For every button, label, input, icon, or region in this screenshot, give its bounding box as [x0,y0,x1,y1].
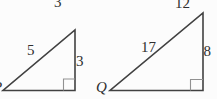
right-hypotenuse-label: 17 [141,40,156,55]
left-hypotenuse-label: 5 [27,43,35,58]
clipped-top-label-right: 12 [175,0,190,11]
left-vertical-side-label: 3 [76,54,84,69]
right-triangle-outline [110,13,203,91]
left-vertex-label-partial: P [0,80,2,95]
left-triangle-outline [3,30,75,91]
right-vertex-label: Q [96,80,107,95]
clipped-top-label-left: 3 [54,0,62,10]
right-right-angle-marker-icon [191,80,204,91]
similar-triangles-figure: 3 12 5 3 P 17 8 Q [0,0,217,99]
right-vertical-side-label: 8 [204,44,212,59]
left-right-angle-marker-icon [64,79,76,91]
